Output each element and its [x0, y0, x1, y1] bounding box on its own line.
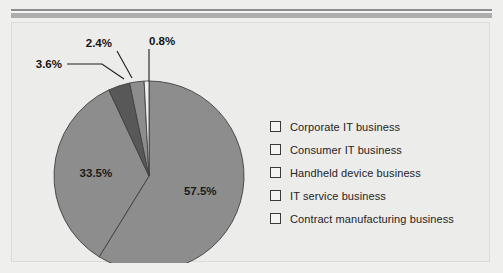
- legend-swatch-icon: [270, 144, 281, 155]
- legend-swatch-icon: [270, 213, 281, 224]
- pie-chart-svg: 57.5%33.5% 3.6%2.4%0.8%: [12, 23, 264, 263]
- legend-swatch-icon: [270, 121, 281, 132]
- leader-line-4: [117, 51, 132, 78]
- rule-thick: [11, 13, 492, 18]
- legend-item-label: Corporate IT business: [290, 121, 400, 133]
- legend-item-handheld-device-business[interactable]: Handheld device business: [270, 161, 480, 184]
- callout-leaders: [67, 49, 149, 81]
- legend-item-label: Consumer IT business: [290, 144, 402, 156]
- legend-item-consumer-it-business[interactable]: Consumer IT business: [270, 138, 480, 161]
- pie-slice-label: 57.5%: [184, 185, 217, 197]
- legend-item-label: Handheld device business: [290, 167, 421, 179]
- legend-item-contract-manufacturing-business[interactable]: Contract manufacturing business: [270, 207, 480, 230]
- leader-line-3: [67, 64, 124, 79]
- pie-callout-labels: 3.6%2.4%0.8%: [36, 35, 175, 70]
- legend-item-corporate-it-business[interactable]: Corporate IT business: [270, 115, 480, 138]
- legend-item-label: IT service business: [290, 190, 386, 202]
- pie-slice-label: 33.5%: [80, 167, 113, 179]
- legend-swatch-icon: [270, 190, 281, 201]
- legend-item-label: Contract manufacturing business: [290, 213, 454, 225]
- legend-swatch-icon: [270, 167, 281, 178]
- pie-callout-label: 0.8%: [149, 35, 175, 47]
- legend-item-it-service-business[interactable]: IT service business: [270, 184, 480, 207]
- pie-callout-label: 3.6%: [36, 58, 62, 70]
- figure-panel: 57.5%33.5% 3.6%2.4%0.8% Corporate IT bus…: [11, 22, 490, 262]
- pie-callout-label: 2.4%: [86, 37, 112, 49]
- chart-legend: Corporate IT business Consumer IT busine…: [270, 115, 480, 230]
- header-rules: [11, 9, 492, 18]
- pie-chart: 57.5%33.5% 3.6%2.4%0.8%: [12, 23, 264, 263]
